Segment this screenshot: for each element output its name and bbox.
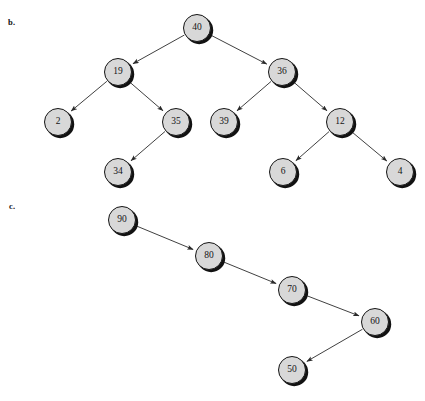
tree-node-80: 80 bbox=[195, 242, 223, 270]
tree-edge-b35-to-b34 bbox=[131, 131, 165, 160]
tree-node-90: 90 bbox=[108, 206, 136, 234]
tree-node-label: 80 bbox=[204, 251, 214, 261]
tree-node-50: 50 bbox=[278, 356, 306, 384]
tree-node-label: 35 bbox=[171, 117, 181, 127]
tree-edge-b40-to-b36 bbox=[210, 35, 267, 64]
tree-node-60: 60 bbox=[361, 308, 389, 336]
tree-node-2: 2 bbox=[44, 108, 72, 136]
tree-node-label: 40 bbox=[192, 23, 202, 33]
tree-node-label: 12 bbox=[335, 117, 345, 127]
tree-node-label: 60 bbox=[370, 317, 380, 327]
tree-node-label: 6 bbox=[281, 167, 286, 177]
tree-node-label: 39 bbox=[219, 117, 229, 127]
tree-edge-b12-to-b6 bbox=[296, 132, 329, 161]
tree-edge-c90-to-c80 bbox=[135, 226, 193, 250]
tree-node-4: 4 bbox=[386, 158, 414, 186]
tree-node-label: 19 bbox=[113, 67, 123, 77]
tree-node-19: 19 bbox=[104, 58, 132, 86]
tree-node-label: 90 bbox=[117, 215, 127, 225]
tree-edge-b40-to-b19 bbox=[133, 35, 184, 64]
tree-node-40: 40 bbox=[183, 14, 211, 42]
binary-tree-figure: 401936235391234649080706050 b.c. bbox=[0, 0, 425, 401]
tree-edge-b12-to-b4 bbox=[351, 131, 387, 161]
tree-edge-b19-to-b35 bbox=[129, 81, 163, 110]
tree-edge-c60-to-c50 bbox=[307, 329, 363, 361]
tree-node-6: 6 bbox=[269, 158, 297, 186]
tree-node-70: 70 bbox=[278, 276, 306, 304]
tree-node-12: 12 bbox=[326, 108, 354, 136]
tree-edge-b36-to-b12 bbox=[293, 81, 327, 110]
tree-node-label: 36 bbox=[277, 67, 287, 77]
tree-edge-c80-to-c70 bbox=[222, 261, 276, 283]
tree-node-label: 2 bbox=[56, 117, 61, 127]
tree-node-label: 4 bbox=[398, 167, 403, 177]
tree-node-label: 34 bbox=[113, 167, 123, 177]
tree-node-35: 35 bbox=[162, 108, 190, 136]
tree-node-34: 34 bbox=[104, 158, 132, 186]
tree-edges-layer bbox=[0, 0, 425, 401]
tree-node-39: 39 bbox=[210, 108, 238, 136]
tree-edge-b36-to-b39 bbox=[237, 81, 271, 110]
tree-node-label: 70 bbox=[287, 285, 297, 295]
tree-edge-b19-to-b2 bbox=[71, 81, 107, 111]
tree-node-36: 36 bbox=[268, 58, 296, 86]
tree-edge-c70-to-c60 bbox=[306, 295, 359, 316]
tree-node-label: 50 bbox=[287, 365, 297, 375]
